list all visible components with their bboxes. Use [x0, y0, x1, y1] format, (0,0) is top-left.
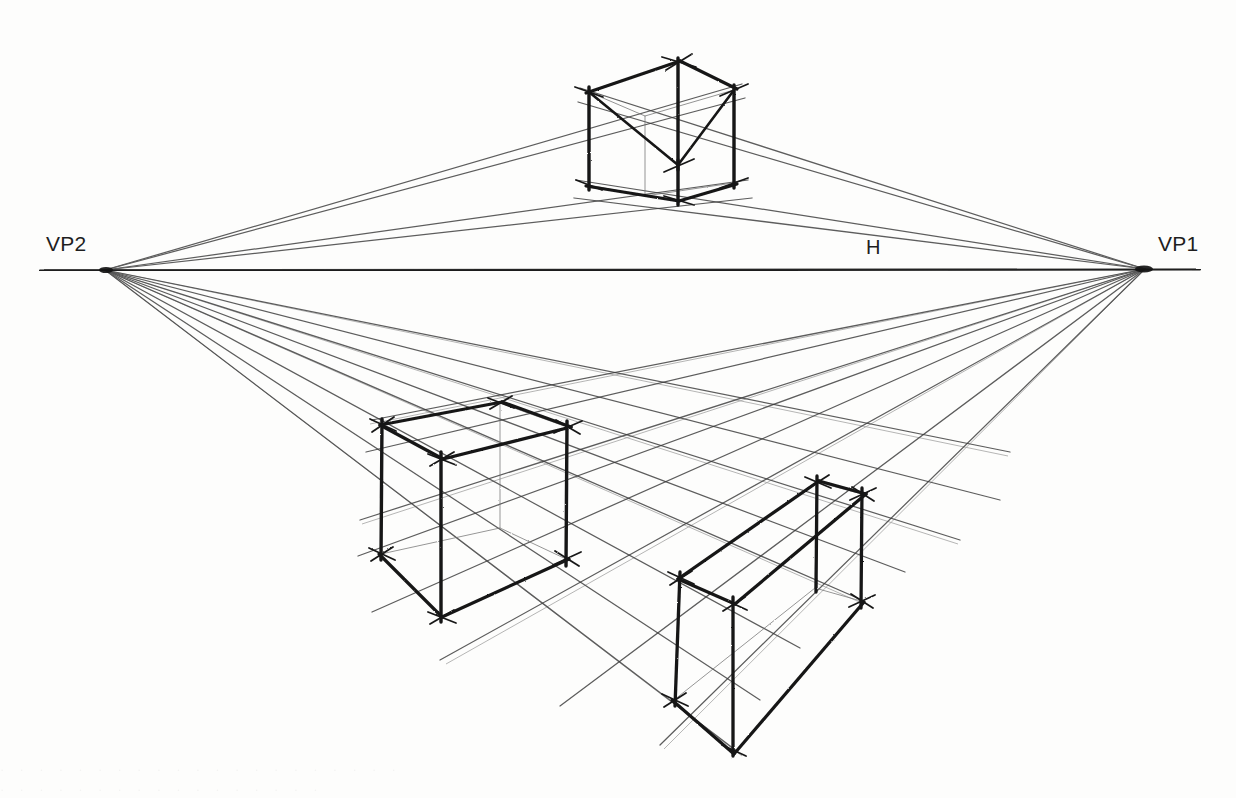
box-lower-right-top-face: [678, 481, 866, 604]
box-lower-left-verticals: [381, 419, 567, 622]
construction-rays-doubles: [105, 269, 1145, 756]
box-lower-left: [369, 396, 582, 624]
box-lower-left-corner-ticks: [369, 396, 582, 624]
perspective-drawing-canvas: [0, 0, 1236, 798]
box-lower-right: [662, 475, 876, 756]
horizon-label: H: [866, 236, 881, 259]
vp2-point: [99, 267, 113, 273]
box-upper-top-face: [586, 61, 737, 93]
vanishing-point-1-label: VP1: [1158, 232, 1198, 256]
scan-bleed-row-1: · · · · · · · · · · · · · · · · · · · · …: [0, 762, 1236, 780]
box-upper-corner-ticks: [575, 54, 748, 205]
box-upper-hidden-edges: [589, 90, 734, 196]
vanishing-point-2-label: VP2: [46, 232, 86, 256]
box-upper-verticals: [589, 58, 734, 205]
box-lower-left-bottom-face: [379, 554, 569, 617]
box-upper: [575, 54, 748, 205]
horizon-line: [40, 269, 1200, 271]
drawing-page: VP2 VP1 H · · · · · · · · · · · · · · · …: [0, 0, 1236, 798]
construction-rays-from-vp1: [358, 88, 1145, 745]
scan-bleed-row-2: · · · · · · · · · · · · · · · · ·: [0, 782, 1236, 798]
construction-rays-from-vp2: [105, 84, 1010, 752]
vp1-point: [1135, 265, 1153, 272]
